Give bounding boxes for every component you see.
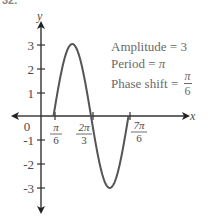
x-tick-pi6-num: π — [53, 121, 59, 133]
x-tick-pi6-den: 6 — [53, 134, 59, 146]
phase-label: Phase shift = — [111, 76, 182, 91]
period-label: Period = — [111, 56, 159, 71]
y-tick-3: 3 — [28, 38, 35, 53]
phase-den: 6 — [185, 84, 191, 97]
x-tick-2pi3-num: 2π — [78, 121, 90, 133]
amplitude-annotation: Amplitude = 3 — [111, 40, 187, 53]
y-tick-labels: 3 2 1 -1 -2 -3 — [23, 38, 34, 196]
y-axis-label: y — [36, 9, 43, 23]
phase-num: π — [184, 70, 192, 84]
y-tick-2: 2 — [28, 62, 35, 77]
x-tick-7pi6-num: 7π — [133, 119, 145, 131]
x-axis-label: x — [189, 109, 196, 123]
period-value: π — [159, 56, 166, 71]
y-tick-neg1: -1 — [23, 133, 34, 148]
y-tick-neg2: -2 — [23, 157, 34, 172]
phase-fraction: π6 — [184, 70, 192, 97]
phase-shift-annotation: Phase shift = π6 — [111, 70, 192, 97]
sine-graph: 3 2 1 -1 -2 -3 0 π 6 2π 3 7π 6 x y — [0, 0, 208, 224]
x-tick-labels: π 6 2π 3 7π 6 — [50, 119, 147, 146]
y-tick-1: 1 — [28, 86, 35, 101]
x-tick-2pi3-den: 3 — [81, 134, 87, 146]
origin-label: 0 — [24, 119, 31, 134]
period-annotation: Period = π — [111, 57, 165, 70]
x-tick-7pi6-den: 6 — [136, 132, 142, 144]
y-tick-neg3: -3 — [23, 181, 34, 196]
